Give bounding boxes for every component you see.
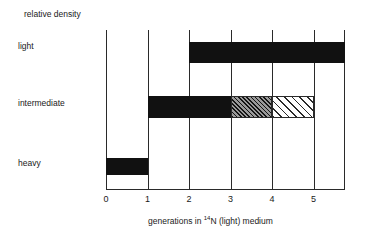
x-tick-4: 4 [262, 194, 282, 204]
x-tick-1: 1 [138, 194, 158, 204]
y-axis-title: relative density [24, 10, 81, 19]
x-axis-title-suffix: N (light) medium [210, 216, 272, 226]
x-axis-title: generations in 14N (light) medium [148, 216, 273, 226]
x-tick-5: 5 [304, 194, 324, 204]
x-tick-3: 3 [221, 194, 241, 204]
band-intermediate-solid [148, 96, 231, 118]
category-label-intermediate: intermediate [18, 99, 65, 108]
x-tick-0: 0 [96, 194, 116, 204]
band-intermediate-light-hatch [272, 96, 314, 118]
category-label-heavy: heavy [18, 159, 41, 168]
x-tick-2: 2 [179, 194, 199, 204]
axis-line-bottom [106, 189, 345, 190]
band-light-solid [189, 42, 345, 63]
figure-root: relative density light intermediate heav… [0, 0, 366, 244]
plot-area [106, 30, 345, 190]
band-heavy-solid [106, 158, 148, 175]
band-intermediate-dense-hatch [231, 96, 273, 118]
x-axis-title-prefix: generations in [148, 216, 204, 226]
category-label-light: light [18, 42, 34, 51]
